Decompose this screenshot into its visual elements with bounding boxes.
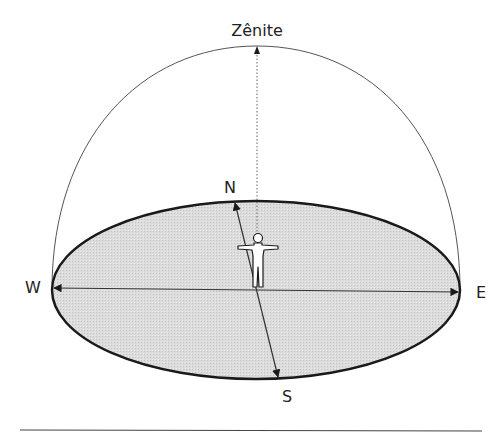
zenith-label: Zênite [231, 23, 283, 39]
south-label: S [282, 389, 292, 405]
east-label: E [476, 285, 486, 301]
north-label: N [224, 180, 236, 196]
diagram-canvas [0, 0, 501, 433]
zenith-arrowhead [254, 46, 260, 54]
bottom-rule [20, 430, 482, 431]
west-label: W [25, 280, 41, 296]
